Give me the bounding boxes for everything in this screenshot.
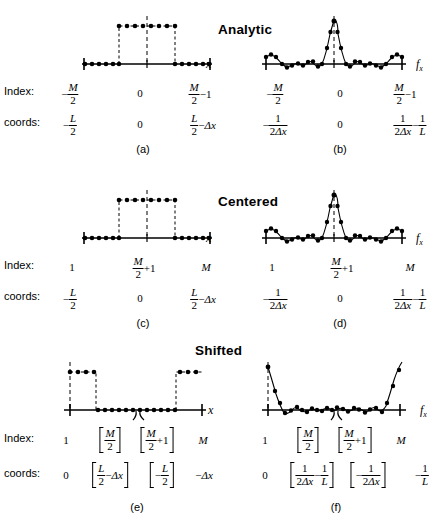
panel-b-plot — [258, 12, 410, 74]
panel-c-coords-left: −L2 — [63, 287, 77, 311]
panel-e-coords-4: −Δx — [195, 470, 213, 482]
panel-f-index-2: M2 — [297, 428, 318, 452]
panel-a-plot — [78, 12, 216, 74]
row-label-coords-centered: coords: — [4, 290, 40, 302]
caption-c: (c) — [137, 317, 150, 329]
panel-f-coords-1: 0 — [262, 470, 268, 482]
row-label-index-analytic: Index: — [4, 85, 34, 97]
caption-f: (f) — [331, 501, 341, 513]
panel-b-coords-right: 12Δx−1L — [393, 113, 426, 137]
panel-c-index-center: M2+1 — [133, 256, 156, 280]
row-label-index-centered: Index: — [4, 259, 34, 271]
panel-f-coords-3: −12Δx — [350, 463, 385, 487]
panel-f-index-1: 1 — [262, 435, 268, 447]
row-label-coords-analytic: coords: — [4, 116, 40, 128]
panel-a-index-left: −M2 — [61, 82, 78, 106]
panel-d-axis-label: fx — [416, 231, 423, 247]
panel-e-axis-label: x — [208, 403, 213, 418]
figure-root: Analytic — [0, 0, 447, 525]
panel-c-coords-center: 0 — [137, 293, 143, 305]
panel-f-index-4: M — [396, 435, 405, 447]
section-title-shifted: Shifted — [195, 343, 242, 358]
panel-a-index-right: M2−1 — [189, 82, 212, 106]
panel-d-index-left: 1 — [269, 262, 275, 274]
panel-c-index-right: M — [201, 262, 210, 274]
panel-d-coords-left: −12Δx — [262, 287, 287, 311]
panel-e-index-1: 1 — [63, 435, 69, 447]
panel-e-index-4: M — [198, 435, 207, 447]
panel-b-axis-label: fx — [416, 57, 423, 73]
panel-f-coords-4: −1L — [415, 463, 429, 487]
panel-a-coords-left: −L2 — [63, 113, 77, 137]
row-label-coords-shifted: coords: — [4, 467, 40, 479]
panel-d-plot — [258, 186, 410, 248]
panel-f-axis-label: fx — [420, 403, 427, 419]
panel-f-plot — [258, 358, 418, 420]
panel-a-axis-label: x — [206, 57, 211, 72]
panel-b-index-right: M2−1 — [394, 82, 417, 106]
panel-e-index-3: M2+1 — [141, 428, 174, 452]
panel-c-plot — [78, 186, 216, 248]
panel-d-coords-right: 12Δx−1L — [393, 287, 426, 311]
panel-b-coords-center: 0 — [337, 119, 343, 131]
caption-e: (e) — [130, 501, 143, 513]
panel-d-index-right: M — [405, 262, 414, 274]
panel-f-index-3: M2+1 — [339, 428, 372, 452]
panel-b-coords-left: −12Δx — [262, 113, 287, 137]
caption-a: (a) — [136, 143, 149, 155]
panel-c-coords-right: L2−Δx — [190, 287, 216, 311]
panel-e-coords-3: −L2 — [150, 463, 174, 487]
panel-f-coords-2: 12Δx−1L — [290, 463, 333, 487]
caption-b: (b) — [333, 143, 346, 155]
panel-a-index-center: 0 — [137, 88, 143, 100]
panel-c-axis-label: x — [206, 231, 211, 246]
panel-e-coords-1: 0 — [63, 470, 69, 482]
panel-c-index-left: 1 — [69, 262, 75, 274]
panel-b-index-left: −M2 — [266, 82, 283, 106]
panel-d-coords-center: 0 — [337, 293, 343, 305]
panel-b-index-center: 0 — [337, 88, 343, 100]
caption-d: (d) — [333, 317, 346, 329]
panel-e-index-2: M2 — [99, 428, 120, 452]
panel-a-coords-center: 0 — [137, 119, 143, 131]
panel-e-plot — [60, 358, 220, 420]
panel-a-coords-right: L2−Δx — [190, 113, 216, 137]
panel-e-coords-2: L2−Δx — [92, 463, 128, 487]
panel-d-index-center: M2+1 — [331, 256, 354, 280]
row-label-index-shifted: Index: — [4, 432, 34, 444]
